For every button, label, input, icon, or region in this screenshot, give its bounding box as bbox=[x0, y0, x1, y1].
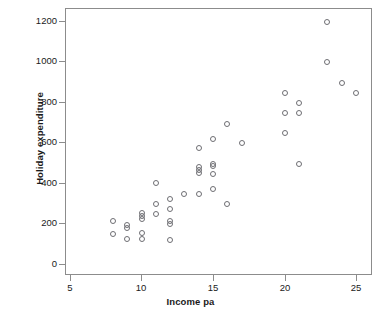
y-tick-mark-600 bbox=[59, 142, 65, 143]
y-tick-mark-1000 bbox=[59, 61, 65, 62]
y-tick-mark-0 bbox=[59, 264, 65, 265]
plot-frame bbox=[65, 8, 372, 275]
y-tick-mark-400 bbox=[59, 183, 65, 184]
x-axis-title: Income pa bbox=[0, 296, 381, 307]
y-tick-label-0: 0 bbox=[17, 259, 57, 269]
y-tick-label-1200: 1200 bbox=[17, 16, 57, 26]
x-tick-mark-10 bbox=[141, 275, 142, 281]
x-tick-label-15: 15 bbox=[193, 283, 233, 293]
y-tick-label-800: 800 bbox=[17, 97, 57, 107]
x-tick-label-25: 25 bbox=[336, 283, 376, 293]
y-tick-mark-1200 bbox=[59, 21, 65, 22]
x-tick-label-20: 20 bbox=[265, 283, 305, 293]
y-tick-mark-200 bbox=[59, 223, 65, 224]
x-tick-mark-5 bbox=[70, 275, 71, 281]
x-tick-mark-25 bbox=[356, 275, 357, 281]
x-tick-mark-20 bbox=[285, 275, 286, 281]
caption-sliver bbox=[2, 307, 192, 316]
y-tick-label-400: 400 bbox=[17, 178, 57, 188]
y-tick-label-1000: 1000 bbox=[17, 56, 57, 66]
y-tick-label-200: 200 bbox=[17, 218, 57, 228]
scatter-plot-figure: Holiday expenditure 1200 1000 800 600 40… bbox=[0, 0, 381, 316]
y-tick-label-600: 600 bbox=[17, 137, 57, 147]
y-tick-mark-800 bbox=[59, 102, 65, 103]
x-tick-mark-15 bbox=[213, 275, 214, 281]
x-tick-label-5: 5 bbox=[50, 283, 90, 293]
x-tick-label-10: 10 bbox=[121, 283, 161, 293]
